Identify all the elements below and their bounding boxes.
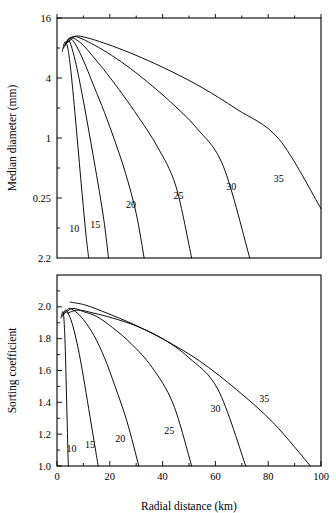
lower-xtick-label: 20 bbox=[105, 471, 116, 482]
lower-ytick-label-top: 2.2 bbox=[38, 253, 51, 264]
lower-panel-frame bbox=[57, 275, 321, 466]
two-panel-plot: 10152025303516410.25Median diameter (mm)… bbox=[0, 0, 336, 513]
xaxis-title: Radial distance (km) bbox=[141, 500, 237, 513]
lower-xtick-label: 100 bbox=[313, 471, 329, 482]
upper-curve-label-25: 25 bbox=[173, 190, 183, 201]
upper-curve-label-35: 35 bbox=[274, 173, 284, 184]
lower-xtick-label: 40 bbox=[157, 471, 168, 482]
lower-ytick-label: 1.4 bbox=[38, 397, 52, 408]
upper-curve-label-30: 30 bbox=[226, 181, 236, 192]
lower-curve-25 bbox=[65, 308, 192, 466]
lower-curve-label-25: 25 bbox=[164, 425, 174, 436]
lower-yaxis-title: Sorting coefficient bbox=[6, 327, 19, 413]
lower-xtick-label: 80 bbox=[263, 471, 274, 482]
upper-yaxis-title: Median diameter (mm) bbox=[6, 85, 19, 192]
lower-ytick-label: 1.6 bbox=[38, 365, 51, 376]
lower-curve-label-35: 35 bbox=[259, 393, 269, 404]
lower-ytick-label: 1.0 bbox=[38, 461, 51, 472]
lower-xtick-label: 60 bbox=[210, 471, 221, 482]
upper-ytick-label: 1 bbox=[46, 133, 51, 144]
upper-ytick-label: 4 bbox=[46, 73, 52, 84]
upper-curve-label-15: 15 bbox=[90, 219, 100, 230]
lower-curve-35 bbox=[70, 302, 310, 466]
lower-ytick-label: 1.2 bbox=[38, 429, 51, 440]
figure-container: 10152025303516410.25Median diameter (mm)… bbox=[0, 0, 336, 513]
lower-xtick-label: 0 bbox=[54, 471, 59, 482]
lower-ytick-label: 2.0 bbox=[38, 301, 51, 312]
upper-curve-label-20: 20 bbox=[126, 199, 136, 210]
upper-curve-label-10: 10 bbox=[69, 223, 79, 234]
lower-curve-label-20: 20 bbox=[115, 433, 125, 444]
upper-ytick-label: 16 bbox=[41, 13, 52, 24]
upper-ytick-label: 0.25 bbox=[33, 193, 51, 204]
lower-ytick-label: 1.8 bbox=[38, 333, 51, 344]
lower-curve-label-10: 10 bbox=[67, 443, 77, 454]
lower-curve-label-15: 15 bbox=[85, 439, 95, 450]
lower-curve-label-30: 30 bbox=[210, 403, 220, 414]
